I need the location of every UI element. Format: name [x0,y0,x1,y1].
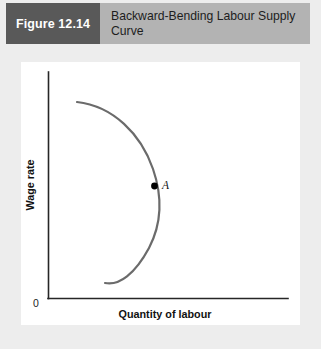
point-a-label: A [161,179,170,191]
figure-title-line-2: Curve [111,24,144,38]
figure-header: Figure 12.14 Backward-Bending Labour Sup… [6,3,310,44]
figure-title-line-1: Backward-Bending Labour Supply [111,9,295,23]
figure-number-box: Figure 12.14 [6,3,100,44]
figure-card: Figure 12.14 Backward-Bending Labour Sup… [0,0,321,349]
labour-supply-curve [77,102,159,283]
chart-svg: 0 Wage rate Quantity of labour A [21,62,300,325]
x-axis-title: Quantity of labour [119,308,213,320]
origin-tick-label: 0 [33,297,39,309]
plot-card: 0 Wage rate Quantity of labour A [21,62,300,325]
figure-title-box: Backward-Bending Labour Supply Curve [100,3,310,44]
y-axis-title: Wage rate [24,159,36,210]
figure-title: Backward-Bending Labour Supply Curve [111,9,295,38]
figure-number-label: Figure 12.14 [16,17,90,31]
point-a-marker [151,183,158,190]
